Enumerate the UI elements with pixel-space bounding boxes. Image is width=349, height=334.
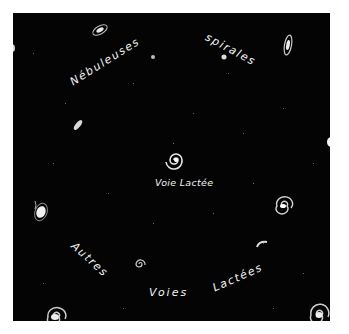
spiral-galaxy-icon [307, 301, 330, 321]
spiral-galaxy-icon [282, 33, 294, 59]
star [65, 103, 66, 104]
spiral-galaxy-icon [43, 305, 69, 321]
star [273, 308, 274, 309]
star [123, 308, 124, 309]
star-field-diagram: Nébuleuses spirales Voie Lactée Autres V… [13, 13, 330, 321]
star [43, 283, 44, 284]
star [303, 273, 304, 274]
star [243, 133, 244, 134]
star [213, 213, 214, 214]
star [173, 143, 174, 144]
label-autres: Autres [68, 239, 110, 279]
label-voie-lactee-center: Voie Lactée [155, 177, 213, 188]
star [193, 113, 194, 114]
star [283, 108, 284, 109]
star [253, 183, 254, 184]
spiral-galaxy-icon [255, 239, 269, 249]
star [153, 223, 154, 224]
star [313, 163, 314, 164]
star [108, 193, 109, 194]
star [133, 83, 134, 84]
milky-way-spiral-icon [165, 149, 187, 171]
spiral-galaxy-icon [272, 196, 296, 216]
spiral-galaxy-icon [71, 118, 85, 132]
galaxy-dot-icon [323, 135, 330, 149]
spiral-galaxy-icon [134, 258, 146, 270]
star [228, 73, 229, 74]
spiral-galaxy-icon [29, 197, 51, 225]
galaxy-dot-icon [13, 43, 18, 53]
spiral-galaxy-icon [91, 23, 109, 37]
label-lactees: Lactées [211, 261, 265, 295]
label-nebuleuses: Nébuleuses [68, 35, 143, 88]
star [33, 53, 34, 54]
galaxy-dot-icon [149, 53, 157, 61]
label-spirales: spirales [203, 31, 258, 68]
label-voies: Voies [149, 286, 188, 299]
star [53, 163, 54, 164]
